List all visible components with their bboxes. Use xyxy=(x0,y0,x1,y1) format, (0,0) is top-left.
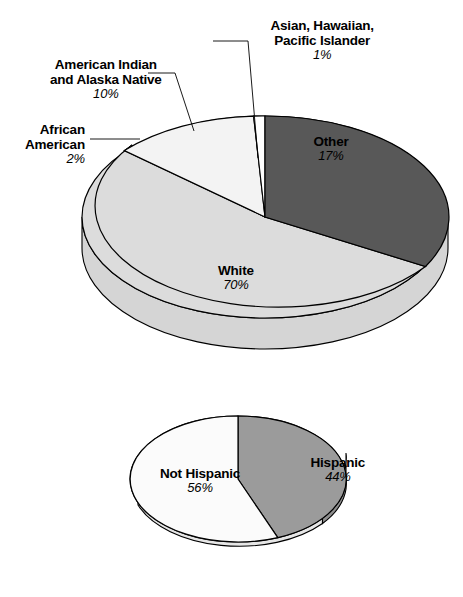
label-african-american-line2: American xyxy=(25,137,85,152)
label-hispanic-line1: Hispanic xyxy=(311,455,366,470)
label-not-hispanic: Not Hispanic 56% xyxy=(160,466,240,496)
label-american-indian-alaska-native: American Indian and Alaska Native 10% xyxy=(50,57,162,102)
label-american-indian-line1: American Indian xyxy=(50,57,162,72)
label-asian-percent: 1% xyxy=(271,48,374,63)
label-african-american-line1: African xyxy=(25,122,85,137)
label-other-percent: 17% xyxy=(314,149,349,164)
label-not-hispanic-line1: Not Hispanic xyxy=(160,466,240,481)
label-hispanic-percent: 44% xyxy=(311,470,366,485)
label-hispanic: Hispanic 44% xyxy=(311,455,366,485)
label-white-percent: 70% xyxy=(218,278,254,293)
label-american-indian-percent: 10% xyxy=(50,87,162,102)
label-american-indian-line2: and Alaska Native xyxy=(50,72,162,87)
label-asian-hawaiian-pacific-islander: Asian, Hawaiian, Pacific Islander 1% xyxy=(271,18,374,63)
label-asian-line1: Asian, Hawaiian, xyxy=(271,18,374,33)
label-white: White 70% xyxy=(218,263,254,293)
label-other-line1: Other xyxy=(314,134,349,149)
label-african-american-percent: 2% xyxy=(25,152,85,167)
label-asian-line2: Pacific Islander xyxy=(271,33,374,48)
label-not-hispanic-percent: 56% xyxy=(160,481,240,496)
label-other: Other 17% xyxy=(314,134,349,164)
label-white-line1: White xyxy=(218,263,254,278)
label-african-american: African American 2% xyxy=(25,122,85,167)
